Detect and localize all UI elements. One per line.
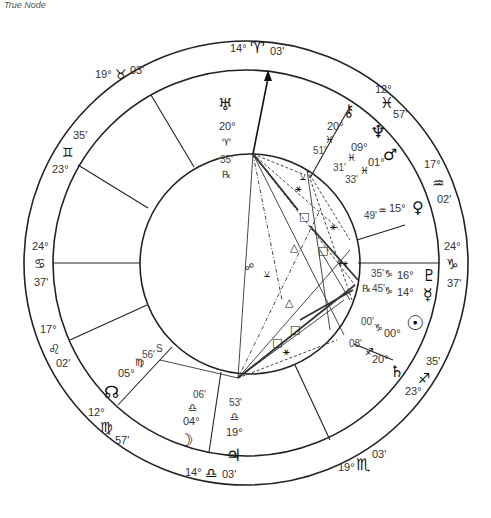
svg-text:53': 53' — [229, 397, 242, 408]
svg-text:24°: 24° — [444, 240, 461, 252]
svg-text:℞: ℞ — [362, 283, 371, 294]
svg-text:19°: 19° — [226, 426, 243, 438]
svg-text:♑: ♑ — [384, 268, 393, 279]
svg-text:12°: 12° — [88, 406, 105, 418]
libra-icon: ♎ — [205, 465, 218, 481]
svg-text:△: △ — [285, 296, 294, 309]
svg-text:⚹: ⚹ — [330, 220, 337, 233]
svg-text:35': 35' — [371, 268, 384, 279]
svg-text:♐: ♐ — [365, 346, 374, 357]
svg-text:♓: ♓ — [360, 165, 369, 176]
svg-text:15°: 15° — [389, 202, 406, 214]
svg-text:00': 00' — [361, 316, 374, 327]
svg-text:☍: ☍ — [245, 262, 254, 272]
venus-icon: ♀ — [412, 198, 424, 217]
svg-text:57': 57' — [393, 108, 407, 120]
planet-venus: ♀ 15° ♒ 49' — [364, 198, 424, 221]
sign-cusp-labels: 14° ♈ 03' 19° ♉ 03' 35' ♊ 23° 24° ♋ 37' … — [32, 38, 461, 481]
svg-text:37': 37' — [34, 276, 48, 288]
cancer-icon: ♋ — [34, 256, 46, 271]
svg-text:♎: ♎ — [188, 402, 197, 413]
aries-icon: ♈ — [250, 38, 264, 57]
svg-text:35': 35' — [73, 129, 87, 141]
svg-text:16°: 16° — [397, 269, 414, 281]
natal-chart-wheel: ☍ ⚹ □ △ □ ⚹ △ □ □ ⚹ ⚺ ⚺ ⚹⚹ 14° ♈ 03' 19°… — [0, 0, 491, 518]
jupiter-icon: ♃ — [226, 445, 241, 465]
svg-text:□: □ — [290, 323, 300, 336]
aquarius-icon: ♒ — [432, 175, 445, 191]
moon-icon: ☽ — [178, 430, 193, 450]
svg-text:20°: 20° — [372, 353, 389, 365]
aspect-glyphs: ☍ ⚹ □ △ □ ⚹ △ □ □ ⚹ ⚺ ⚺ ⚹⚹ — [245, 172, 348, 358]
leo-icon: ♌ — [48, 341, 61, 357]
gemini-icon: ♊ — [62, 145, 74, 160]
svg-text:♑: ♑ — [374, 322, 383, 333]
planet-mercury: ☿ 14° ♑ 45' ℞ — [362, 283, 433, 304]
svg-text:□: □ — [318, 244, 328, 257]
svg-text:20°: 20° — [219, 120, 236, 132]
pluto-icon: ♇ — [422, 266, 436, 285]
svg-text:49': 49' — [364, 210, 377, 221]
svg-text:⚺: ⚺ — [300, 172, 306, 182]
svg-text:♎: ♎ — [230, 411, 239, 422]
svg-text:20°: 20° — [327, 120, 344, 132]
svg-text:56': 56' — [142, 349, 155, 360]
svg-text:⚹⚹: ⚹⚹ — [338, 259, 348, 268]
svg-text:17°: 17° — [424, 158, 441, 170]
svg-text:05°: 05° — [118, 367, 135, 379]
planet-north-node: ☊ 05° ♍ 56' S — [104, 343, 163, 402]
planet-moon: ☽ 04° ♎ 06' — [178, 389, 206, 450]
svg-text:51': 51' — [313, 145, 326, 156]
taurus-icon: ♉ — [115, 67, 127, 82]
svg-text:03': 03' — [372, 448, 386, 460]
svg-text:19°: 19° — [95, 68, 112, 80]
virgo-icon: ♍ — [100, 419, 113, 435]
svg-text:04°: 04° — [183, 415, 200, 427]
svg-text:00°: 00° — [384, 327, 401, 339]
svg-text:℞: ℞ — [222, 169, 231, 180]
svg-text:03': 03' — [270, 45, 284, 57]
svg-text:19°: 19° — [338, 461, 355, 473]
svg-text:17°: 17° — [40, 323, 57, 335]
svg-text:△: △ — [290, 241, 299, 254]
svg-text:57': 57' — [115, 434, 129, 446]
svg-text:♓: ♓ — [347, 152, 356, 163]
svg-text:♓: ♓ — [325, 134, 334, 145]
svg-text:23°: 23° — [52, 163, 69, 175]
svg-text:♒: ♒ — [378, 205, 387, 216]
svg-text:45': 45' — [372, 283, 385, 294]
svg-text:⚹: ⚹ — [295, 182, 302, 195]
svg-text:♈: ♈ — [222, 137, 231, 148]
sagittarius-icon: ♐ — [418, 370, 431, 386]
mars-icon: ♂ — [383, 145, 397, 164]
svg-text:□: □ — [272, 336, 282, 349]
mc-axis — [253, 78, 268, 154]
mercury-icon: ☿ — [423, 285, 433, 304]
chiron-icon: ⚷ — [343, 101, 355, 120]
svg-text:⚹: ⚹ — [283, 345, 290, 358]
svg-text:02': 02' — [437, 193, 451, 205]
uranus-icon: ♅ — [218, 95, 232, 114]
svg-text:24°: 24° — [32, 240, 49, 252]
planet-uranus: ♅ 20° ♈ 35' ℞ — [218, 95, 236, 180]
svg-text:37': 37' — [447, 277, 461, 289]
svg-text:S: S — [156, 343, 163, 354]
svg-text:23°: 23° — [405, 385, 422, 397]
svg-text:33': 33' — [345, 174, 358, 185]
svg-text:03': 03' — [222, 468, 236, 480]
scorpio-icon: ♏ — [356, 455, 370, 474]
neptune-icon: ♆ — [370, 121, 386, 142]
svg-text:14°: 14° — [185, 466, 202, 478]
saturn-icon: ♄ — [390, 362, 404, 381]
svg-text:35': 35' — [426, 355, 440, 367]
planet-jupiter: ♃ 19° ♎ 53' — [226, 397, 243, 465]
svg-text:14°: 14° — [397, 286, 414, 298]
capricorn-icon: ♑ — [446, 256, 459, 272]
svg-text:□: □ — [299, 210, 309, 223]
svg-text:35': 35' — [220, 154, 233, 165]
svg-text:31': 31' — [333, 162, 346, 173]
svg-text:08': 08' — [349, 338, 362, 349]
planet-chiron: ⚷ 20° ♓ 51' — [313, 101, 355, 156]
svg-text:♑: ♑ — [384, 285, 393, 296]
svg-text:06': 06' — [193, 389, 206, 400]
